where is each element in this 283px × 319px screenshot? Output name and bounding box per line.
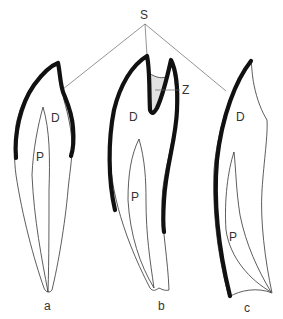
pulp-label-b: P	[131, 190, 139, 204]
caption-b: b	[158, 299, 165, 313]
tooth-diagram: S D P a Z D P b	[0, 0, 283, 319]
caption-a: a	[44, 299, 51, 313]
dentin-label-b: D	[129, 110, 138, 124]
tooth-a: D P a	[15, 63, 74, 313]
pulp-label-c: P	[229, 230, 237, 244]
label-z: Z	[182, 83, 189, 97]
dentin-label-c: D	[236, 110, 245, 124]
tooth-b: Z D P b	[110, 56, 190, 313]
label-s: S	[140, 8, 148, 22]
tooth-c: D P c	[214, 61, 272, 315]
pulp-label-a: P	[36, 150, 44, 164]
caption-c: c	[244, 301, 250, 315]
dentin-label-a: D	[51, 111, 60, 125]
